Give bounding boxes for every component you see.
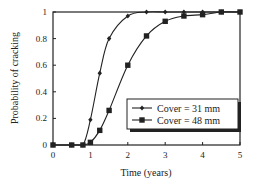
x-tick-label: 1 [88, 150, 93, 160]
square-marker [237, 9, 242, 14]
square-marker [139, 117, 144, 122]
y-tick-label: 0.8 [36, 34, 48, 44]
square-marker [69, 142, 74, 147]
probability-of-cracking-chart: 01234500.20.40.60.81 Cover = 31 mmCover … [0, 0, 258, 185]
x-axis-label: Time (years) [120, 167, 171, 179]
y-tick-label: 0.4 [36, 87, 48, 97]
square-marker [125, 63, 130, 68]
square-marker [88, 140, 93, 145]
legend: Cover = 31 mmCover = 48 mm [127, 99, 241, 132]
x-tick-label: 3 [163, 150, 168, 160]
y-tick-label: 0.6 [36, 60, 48, 70]
plot-axes: 01234500.20.40.60.81 [36, 7, 243, 160]
y-tick-label: 0.2 [36, 113, 47, 123]
square-marker [106, 108, 111, 113]
square-marker [163, 19, 168, 24]
diamond-marker [163, 9, 167, 14]
square-marker [80, 142, 85, 147]
y-tick-label: 0 [43, 140, 48, 150]
x-tick-label: 5 [238, 150, 243, 160]
square-marker [200, 12, 205, 17]
diamond-marker [144, 9, 148, 14]
x-tick-label: 2 [126, 150, 131, 160]
diamond-marker [88, 117, 92, 122]
square-marker [144, 33, 149, 38]
y-axis-label: Probability of cracking [9, 32, 20, 124]
x-tick-label: 4 [200, 150, 205, 160]
square-marker [50, 142, 55, 147]
x-tick-label: 0 [51, 150, 56, 160]
legend-label: Cover = 48 mm [157, 115, 220, 126]
y-tick-label: 1 [43, 7, 48, 17]
square-marker [97, 128, 102, 133]
square-marker [219, 9, 224, 14]
legend-label: Cover = 31 mm [157, 103, 220, 114]
diamond-marker [98, 71, 102, 76]
square-marker [181, 13, 186, 18]
